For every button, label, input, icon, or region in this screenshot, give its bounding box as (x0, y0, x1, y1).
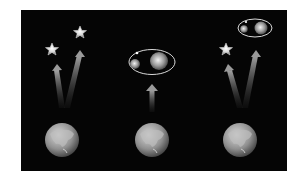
arrow-icon (242, 50, 261, 108)
earth-icon (223, 123, 257, 157)
earth-icon (135, 123, 169, 157)
arrow-icon (64, 50, 85, 108)
arrow-icon (224, 64, 243, 108)
star-icon (46, 43, 59, 55)
diagram-canvas (0, 0, 305, 183)
middle-panel (129, 50, 175, 158)
star-icon (220, 43, 233, 55)
star-icon (74, 26, 87, 38)
arrow-icon (52, 64, 65, 108)
right-panel (220, 19, 273, 157)
left-panel (45, 26, 87, 157)
binary-star-system-icon (129, 50, 175, 75)
arrow-icon (146, 84, 158, 112)
binary-star-system-icon (238, 19, 272, 37)
earth-icon (45, 123, 79, 157)
